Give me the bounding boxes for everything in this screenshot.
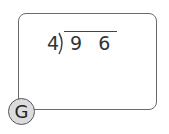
problem-card xyxy=(18,13,157,110)
division-bracket-icon xyxy=(58,32,64,54)
badge-label: G xyxy=(15,101,29,122)
problem-label-badge: G xyxy=(8,98,35,125)
dividend: 9 6 xyxy=(64,31,117,54)
long-division-problem: 4 9 6 xyxy=(47,30,117,54)
